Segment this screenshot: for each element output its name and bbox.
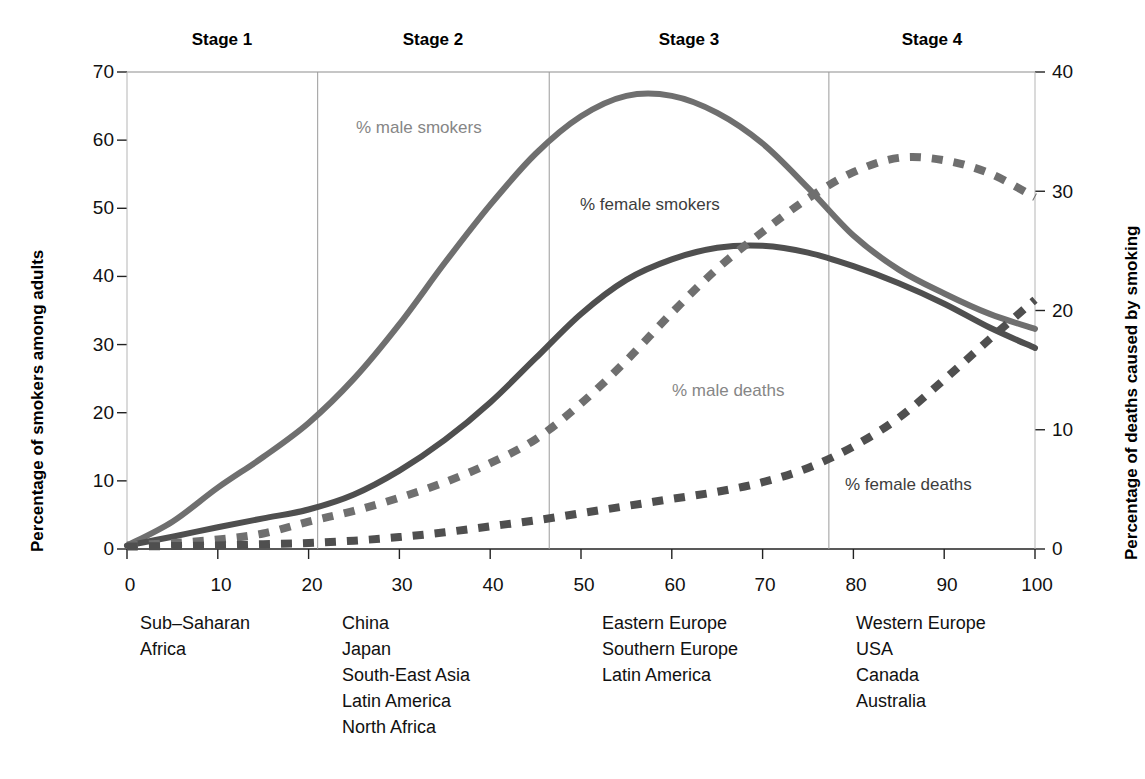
region-group-stage-3: Eastern Europe Southern Europe Latin Ame… [602, 610, 738, 688]
series-path-female-deaths [127, 300, 1035, 547]
series-label-female-smokers: % female smokers [580, 195, 720, 215]
stage-divider-group [318, 72, 829, 549]
series-label-male-deaths: % male deaths [672, 381, 784, 401]
region-group-stage-1: Sub–Saharan Africa [140, 610, 250, 662]
x-axis-ticks [127, 549, 1035, 559]
region-item: Western Europe [856, 610, 986, 636]
region-item: China [342, 610, 470, 636]
chart-root: Stage 1 Stage 2 Stage 3 Stage 4 Percenta… [0, 0, 1145, 779]
region-item: Australia [856, 688, 986, 714]
series-path-female-smokers [127, 245, 1035, 545]
region-item: Canada [856, 662, 986, 688]
region-item: Eastern Europe [602, 610, 738, 636]
region-item: USA [856, 636, 986, 662]
region-item: Sub–Saharan [140, 610, 250, 636]
region-item: Africa [140, 636, 250, 662]
region-item: Japan [342, 636, 470, 662]
region-group-stage-4: Western Europe USA Canada Australia [856, 610, 986, 714]
region-item: Latin America [342, 688, 470, 714]
region-item: South-East Asia [342, 662, 470, 688]
series-label-female-deaths: % female deaths [845, 475, 972, 495]
y-axis-right-ticks [1035, 72, 1045, 549]
region-item: North Africa [342, 714, 470, 740]
series-label-male-smokers: % male smokers [356, 118, 482, 138]
y-axis-left-ticks [117, 72, 127, 549]
region-item: Latin America [602, 662, 738, 688]
region-group-stage-2: China Japan South-East Asia Latin Americ… [342, 610, 470, 740]
region-item: Southern Europe [602, 636, 738, 662]
